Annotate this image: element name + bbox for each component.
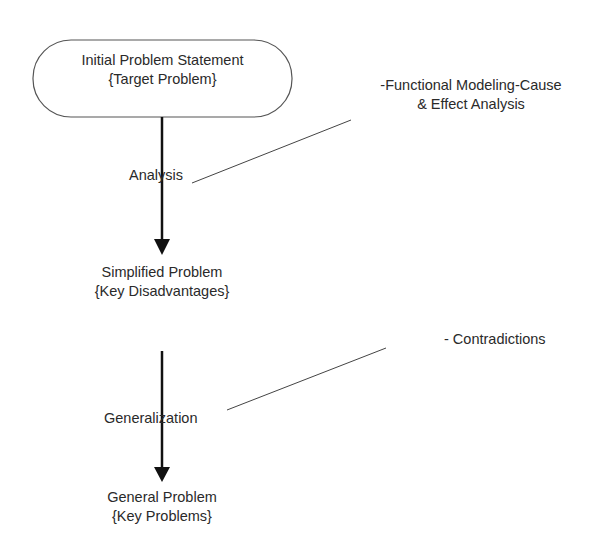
general-problem-subtitle: {Key Problems} (62, 507, 262, 525)
general-problem-title: General Problem (62, 488, 262, 506)
analysis-annotation-line1: -Functional Modeling-Cause (340, 76, 602, 94)
generalization-label: Generalization (104, 409, 198, 427)
analysis-arrowhead-icon (154, 239, 170, 255)
generalization-annotation-connector (227, 348, 386, 410)
initial-problem-title: Initial Problem Statement (33, 51, 292, 69)
analysis-annotation-connector (192, 120, 351, 183)
generalization-arrowhead-icon (154, 467, 170, 482)
simplified-problem-title: Simplified Problem (62, 263, 262, 281)
simplified-problem-subtitle: {Key Disadvantages} (62, 282, 262, 300)
analysis-label: Analysis (129, 166, 183, 184)
analysis-annotation-line2: & Effect Analysis (340, 95, 602, 113)
initial-problem-subtitle: {Target Problem} (33, 70, 292, 88)
contradictions-annotation: - Contradictions (444, 330, 546, 348)
